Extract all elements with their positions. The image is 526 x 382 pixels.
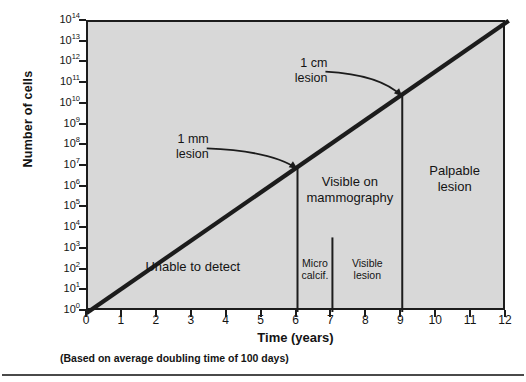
y-tick-mantissa: 10 bbox=[64, 117, 76, 129]
annotation-arrow-one-cm-lesion bbox=[325, 72, 402, 97]
annotation-arrow-one-mm-lesion bbox=[207, 148, 298, 169]
y-tick-mantissa: 10 bbox=[64, 220, 76, 232]
x-tick-mark bbox=[504, 310, 506, 317]
y-tick-mantissa: 10 bbox=[59, 96, 71, 108]
y-tick-mantissa: 10 bbox=[59, 13, 71, 25]
growth-curve-figure: Number of cells 101410131012101110101091… bbox=[0, 0, 526, 382]
x-tick-mark bbox=[260, 310, 262, 317]
figure-footnote: (Based on average doubling time of 100 d… bbox=[60, 352, 289, 364]
x-tick-mark bbox=[364, 310, 366, 317]
y-tick-label: 1014 bbox=[34, 14, 80, 25]
y-tick-mark bbox=[79, 123, 86, 125]
y-tick-label: 106 bbox=[34, 180, 80, 191]
y-tick-mark bbox=[79, 19, 86, 21]
x-axis-title: Time (years) bbox=[86, 330, 505, 345]
x-tick-mark bbox=[85, 310, 87, 317]
region-label-palpable-lesion: Palpable lesion bbox=[395, 163, 515, 195]
y-tick-mark bbox=[79, 268, 86, 270]
plot-area: Unable to detectVisible on mammographyPa… bbox=[86, 20, 505, 310]
x-tick-mark bbox=[399, 310, 401, 317]
y-tick-label: 108 bbox=[34, 138, 80, 149]
y-tick-label: 107 bbox=[34, 159, 80, 170]
y-tick-label: 1010 bbox=[34, 97, 80, 108]
y-tick-label: 105 bbox=[34, 200, 80, 211]
y-tick-mantissa: 10 bbox=[64, 199, 76, 211]
annotation-arrowhead-one-cm-lesion bbox=[394, 88, 402, 96]
x-tick-mark bbox=[295, 310, 297, 317]
y-tick-mark bbox=[79, 102, 86, 104]
y-tick-mantissa: 10 bbox=[59, 54, 71, 66]
y-tick-label: 109 bbox=[34, 118, 80, 129]
region-label-visible-lesion: Visible lesion bbox=[307, 257, 427, 283]
y-tick-mark bbox=[79, 288, 86, 290]
y-tick-mantissa: 10 bbox=[64, 282, 76, 294]
region-label-unable-to-detect: Unable to detect bbox=[133, 259, 253, 275]
y-tick-mark bbox=[79, 205, 86, 207]
x-tick-mark bbox=[225, 310, 227, 317]
y-tick-label: 104 bbox=[34, 221, 80, 232]
y-tick-mark bbox=[79, 81, 86, 83]
y-tick-mark bbox=[79, 164, 86, 166]
y-tick-mark bbox=[79, 185, 86, 187]
y-tick-label: 101 bbox=[34, 283, 80, 294]
annotation-arrowhead-one-mm-lesion bbox=[289, 161, 298, 169]
x-tick-mark bbox=[155, 310, 157, 317]
y-tick-mark bbox=[79, 226, 86, 228]
x-tick-mark bbox=[190, 310, 192, 317]
y-tick-label: 102 bbox=[34, 263, 80, 274]
x-tick-mark bbox=[329, 310, 331, 317]
y-tick-label: 1012 bbox=[34, 55, 80, 66]
y-tick-mark bbox=[79, 143, 86, 145]
y-tick-mantissa: 10 bbox=[59, 34, 71, 46]
y-tick-mantissa: 10 bbox=[64, 158, 76, 170]
callout-one-mm-lesion: 1 mm lesion bbox=[155, 132, 209, 162]
y-axis-title: Number of cells bbox=[21, 39, 35, 199]
y-tick-mark bbox=[79, 40, 86, 42]
y-tick-mantissa: 10 bbox=[64, 241, 76, 253]
y-tick-label: 1013 bbox=[34, 35, 80, 46]
y-tick-mantissa: 10 bbox=[60, 75, 72, 87]
y-tick-mantissa: 10 bbox=[64, 262, 76, 274]
y-tick-mark bbox=[79, 60, 86, 62]
x-tick-mark bbox=[469, 310, 471, 317]
x-tick-mark bbox=[120, 310, 122, 317]
y-tick-mantissa: 10 bbox=[64, 137, 76, 149]
y-tick-label: 1011 bbox=[34, 76, 80, 87]
region-label-visible-on-mammography: Visible on mammography bbox=[290, 174, 410, 206]
bottom-divider-rule bbox=[2, 374, 524, 376]
y-tick-label: 103 bbox=[34, 242, 80, 253]
x-tick-mark bbox=[434, 310, 436, 317]
y-tick-mantissa: 10 bbox=[64, 179, 76, 191]
callout-one-cm-lesion: 1 cm lesion bbox=[273, 56, 327, 86]
y-tick-mark bbox=[79, 247, 86, 249]
